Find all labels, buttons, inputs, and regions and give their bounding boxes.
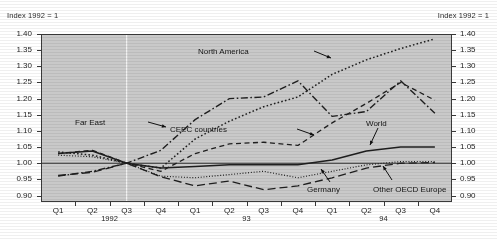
annotation-arrowhead xyxy=(310,132,314,135)
annotation-arrowhead xyxy=(321,169,325,173)
series-label-germany: Germany xyxy=(307,185,340,194)
series-label-ceec-countries: CEEC countries xyxy=(170,125,227,134)
series-label-far-east: Far East xyxy=(75,118,105,127)
series-label-world: World xyxy=(366,119,387,128)
chart-figure: Index 1992 = 1 Index 1992 = 1 1.401.351.… xyxy=(0,0,497,239)
series-label-other-oecd-europe: Other OECD Europe xyxy=(373,185,446,194)
series-label-north-america: North America xyxy=(198,47,249,56)
